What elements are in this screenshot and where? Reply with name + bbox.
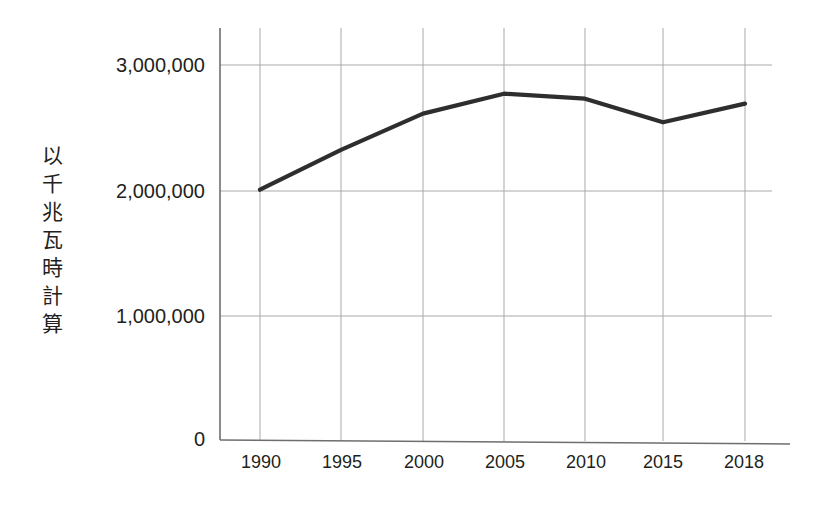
data-line bbox=[260, 94, 745, 190]
plot-area bbox=[0, 0, 825, 505]
axis-spines bbox=[220, 28, 790, 444]
chart-figure: 以 千 兆 瓦 時 計 算 3,000,000 2,000,000 1,000,… bbox=[0, 0, 825, 505]
gridlines-vertical bbox=[260, 28, 745, 441]
x-axis-spine bbox=[220, 440, 790, 444]
data-series-group bbox=[260, 94, 745, 190]
gridlines-horizontal bbox=[220, 65, 772, 316]
